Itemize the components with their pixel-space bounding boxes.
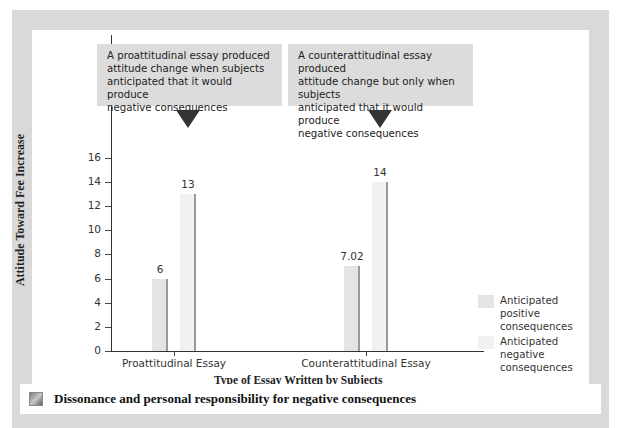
y-tick-label: 10 bbox=[71, 223, 101, 235]
y-tick bbox=[105, 279, 111, 280]
y-axis-label-text: Attitude Toward Fee Increase bbox=[13, 134, 28, 286]
y-tick-label: 2 bbox=[71, 320, 101, 332]
down-arrow-icon bbox=[368, 110, 392, 128]
y-tick bbox=[105, 303, 111, 304]
figure-thumbnail-icon bbox=[29, 392, 43, 406]
y-tick bbox=[105, 182, 111, 183]
figure-caption: Dissonance and personal responsibility f… bbox=[20, 384, 601, 414]
x-tick-label: Proattitudinal Essay bbox=[122, 357, 226, 369]
bar-proattitudinal-positive bbox=[152, 279, 168, 351]
legend-label: Anticipated negative bbox=[500, 335, 600, 361]
chart-panel: Attitude Toward Fee Increase 0 2 4 6 8 1… bbox=[32, 30, 589, 385]
y-tick bbox=[105, 206, 111, 207]
legend-swatch bbox=[478, 295, 494, 308]
legend-swatch bbox=[478, 336, 494, 349]
bar-proattitudinal-negative bbox=[180, 194, 196, 351]
callout-proattitudinal: A proattitudinal essay produced attitude… bbox=[97, 44, 282, 106]
callout-line: A counterattitudinal essay produced bbox=[298, 49, 463, 75]
y-tick-label: 0 bbox=[71, 344, 101, 356]
legend-label: consequences bbox=[500, 320, 600, 333]
y-tick bbox=[105, 254, 111, 255]
callout-counterattitudinal: A counterattitudinal essay produced atti… bbox=[288, 44, 473, 106]
legend-label: Anticipated positive bbox=[500, 294, 600, 320]
callout-line: A proattitudinal essay produced bbox=[107, 49, 272, 62]
down-arrow-icon bbox=[176, 110, 200, 128]
bar-value-label: 14 bbox=[373, 166, 386, 178]
y-tick bbox=[105, 230, 111, 231]
callout-line: anticipated that it would produce bbox=[107, 75, 272, 101]
y-tick-label: 4 bbox=[71, 296, 101, 308]
callout-line: attitude change when subjects bbox=[107, 62, 272, 75]
x-axis bbox=[111, 351, 484, 352]
bar-counterattitudinal-negative bbox=[372, 182, 388, 351]
x-tick-label: Counterattitudinal Essay bbox=[301, 357, 430, 369]
legend-label: consequences bbox=[500, 361, 600, 374]
y-tick-label: 14 bbox=[71, 175, 101, 187]
legend: Anticipated positive consequences Antici… bbox=[478, 294, 600, 376]
legend-item-negative: Anticipated negative consequences bbox=[478, 335, 600, 374]
figure-frame: Attitude Toward Fee Increase 0 2 4 6 8 1… bbox=[12, 10, 609, 428]
bar-value-label: 13 bbox=[181, 178, 194, 190]
y-tick-label: 8 bbox=[71, 247, 101, 259]
y-tick-label: 6 bbox=[71, 272, 101, 284]
legend-item-positive: Anticipated positive consequences bbox=[478, 294, 600, 333]
y-tick bbox=[105, 158, 111, 159]
bar-value-label: 7.02 bbox=[340, 250, 363, 262]
y-tick bbox=[105, 327, 111, 328]
bar-value-label: 6 bbox=[157, 263, 164, 275]
caption-text: Dissonance and personal responsibility f… bbox=[54, 391, 416, 407]
y-tick bbox=[105, 351, 111, 352]
x-tick bbox=[174, 351, 175, 356]
y-tick-label: 16 bbox=[71, 151, 101, 163]
callout-line: negative consequences bbox=[298, 127, 463, 140]
x-tick bbox=[366, 351, 367, 356]
callout-line: attitude change but only when subjects bbox=[298, 75, 463, 101]
bar-counterattitudinal-positive bbox=[344, 266, 360, 351]
y-tick-label: 12 bbox=[71, 199, 101, 211]
